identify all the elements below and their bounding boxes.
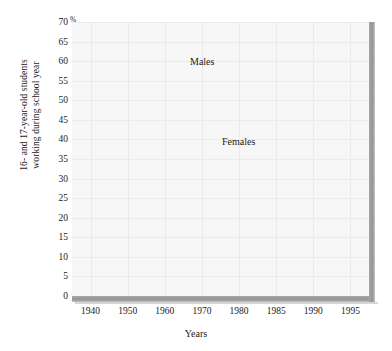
y-tick-label-25: 25 [42,193,68,203]
gridline-horizontal [72,237,369,238]
x-axis-bar [72,296,375,302]
gridline-horizontal [72,120,369,121]
y-axis-tick-labels: 7065605550454035302520151050 [40,22,68,296]
y-tick-label-45: 45 [42,115,68,125]
series-label-males: Males [190,56,214,67]
y-tick-label-40: 40 [42,134,68,144]
gridline-vertical [239,22,240,296]
gridline-horizontal [72,198,369,199]
y-tick-label-50: 50 [42,95,68,105]
x-axis-title: Years [0,328,392,339]
y-tick-label-0: 0 [42,291,68,301]
x-axis-tick-labels: 19401950196019701980198519901995 [72,306,369,320]
gridline-horizontal [72,42,369,43]
series-label-females: Females [222,136,255,147]
y-tick-label-65: 65 [42,37,68,47]
y-tick-label-15: 15 [42,232,68,242]
x-tick-label-1995: 1995 [328,306,372,316]
gridline-vertical [350,22,351,296]
gridline-vertical [165,22,166,296]
y-tick-label-60: 60 [42,56,68,66]
gridline-vertical [91,22,92,296]
gridline-horizontal [72,257,369,258]
gridline-horizontal [72,100,369,101]
gridline-horizontal [72,139,369,140]
y-tick-label-5: 5 [42,271,68,281]
gridline-horizontal [72,218,369,219]
y-tick-label-10: 10 [42,252,68,262]
gridline-vertical [276,22,277,296]
gridline-horizontal [72,61,369,62]
gridline-horizontal [72,81,369,82]
gridline-horizontal [72,159,369,160]
gridline-vertical [313,22,314,296]
y-axis-right-bar [369,22,375,302]
gridline-horizontal [72,179,369,180]
y-axis-title-line-1: 16- and 17-year-old students [18,20,30,210]
y-tick-label-35: 35 [42,154,68,164]
y-tick-label-30: 30 [42,174,68,184]
line-chart-figure: 16- and 17-year-old students working dur… [0,0,392,351]
plot-area [72,22,369,296]
gridline-vertical [128,22,129,296]
gridline-horizontal [72,22,369,23]
y-tick-label-70: 70 [42,17,68,27]
y-tick-label-55: 55 [42,76,68,86]
y-tick-label-20: 20 [42,213,68,223]
gridline-horizontal [72,276,369,277]
